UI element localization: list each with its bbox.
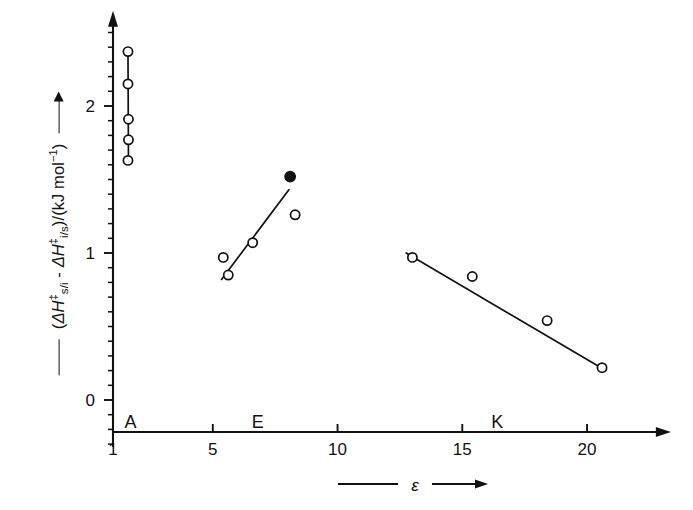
x-axis xyxy=(113,424,671,437)
data-markers xyxy=(123,47,606,372)
x-axis-epsilon-symbol: ε xyxy=(411,476,419,495)
group-label-a: A xyxy=(124,412,136,432)
data-point-a-2 xyxy=(124,115,133,124)
y-axis-arrow-icon xyxy=(108,11,118,27)
x-tick-label-10: 10 xyxy=(328,440,347,459)
x-axis-arrow-icon xyxy=(656,427,671,437)
trend-line-e xyxy=(222,190,289,280)
data-point-e-4 xyxy=(291,210,300,219)
y-tick-label-0: 0 xyxy=(86,391,95,410)
data-point-k-3 xyxy=(597,363,606,372)
data-point-a-4 xyxy=(123,156,132,165)
data-point-e-1 xyxy=(224,270,233,279)
data-point-k-2 xyxy=(543,316,552,325)
x-tick-label-15: 15 xyxy=(453,440,472,459)
trend-lines xyxy=(128,52,606,371)
data-point-a-3 xyxy=(124,135,133,144)
x-caption-arrow-icon xyxy=(475,480,488,489)
data-point-k-0 xyxy=(408,253,417,262)
group-labels: AEK xyxy=(124,412,503,432)
y-tick-label-2: 2 xyxy=(86,97,95,116)
x-tick-label-5: 5 xyxy=(208,440,217,459)
x-axis-caption: ε xyxy=(338,476,488,495)
group-label-e: E xyxy=(252,412,264,432)
group-label-k: K xyxy=(491,412,503,432)
y-tick-label-1: 1 xyxy=(86,244,95,263)
data-point-a-1 xyxy=(123,79,132,88)
tick-labels: 01215101520 xyxy=(86,97,597,459)
data-point-e-3 xyxy=(285,171,295,181)
x-tick-label-20: 20 xyxy=(578,440,597,459)
y-axis xyxy=(104,11,118,447)
x-tick-label-1: 1 xyxy=(108,440,117,459)
data-point-e-2 xyxy=(248,238,257,247)
chart-figure: 01215101520 AEK ε (ΔH‡s/i - ΔH‡i/s)/(kJ … xyxy=(0,0,693,510)
data-point-k-1 xyxy=(468,272,477,281)
trend-line-k xyxy=(406,253,606,371)
data-point-a-0 xyxy=(123,47,132,56)
scatter-plot-canvas: 01215101520 AEK ε xyxy=(0,0,693,510)
data-point-e-0 xyxy=(219,253,228,262)
